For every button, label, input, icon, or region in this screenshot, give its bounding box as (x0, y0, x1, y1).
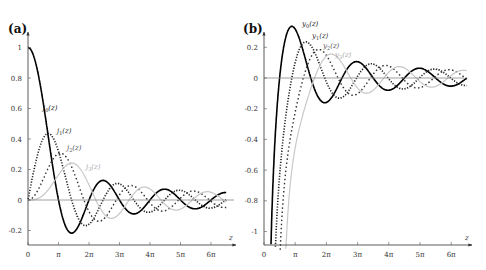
x-tick-label: 3π (353, 251, 362, 259)
curve-y1 (275, 42, 466, 247)
curve-j0 (28, 48, 226, 234)
panel-label-a: (a) (8, 22, 27, 36)
y-tick-label: -0.2 (9, 227, 23, 235)
bessel-chart: (a) 0π2π3π4π5π6π-0.200.20.40.60.81 z j0(… (0, 0, 486, 270)
curve-labels-a: j0(z)j1(z)j2(z)j3(z) (41, 104, 101, 172)
y-tick-label: 0 (254, 75, 258, 83)
curve-label-j3: j3(z) (84, 163, 101, 172)
x-tick-label: 2π (84, 251, 93, 259)
curve-label-j2: j2(z) (65, 144, 82, 153)
y-tick-label: 0.4 (11, 136, 23, 144)
y-tick-label: -0.6 (245, 167, 259, 175)
x-tick-label: 6π (447, 251, 456, 259)
curve-label-y3: y3(z) (334, 51, 352, 60)
curve-label-y1: y1(z) (311, 32, 329, 41)
curve-label-j0: j0(z) (41, 104, 58, 113)
y-tick-label: -0.2 (245, 105, 259, 113)
x-tick-label: 6π (206, 251, 215, 259)
x-tick-label: π (293, 251, 298, 259)
y-tick-label: 1 (18, 44, 22, 52)
y-tick-label: 0.2 (247, 44, 258, 52)
curves-a (28, 48, 226, 234)
curve-labels-b: y0(z)y1(z)y2(z)y3(z) (301, 20, 352, 60)
x-axis-label-a: z (228, 234, 233, 242)
y-tick-label: 0 (18, 197, 22, 205)
x-tick-label: 5π (176, 251, 185, 259)
y-tick-label: 0.8 (11, 75, 22, 83)
curve-label-j1: j1(z) (55, 127, 72, 136)
panel-a: (a) 0π2π3π4π5π6π-0.200.20.40.60.81 z j0(… (8, 22, 236, 259)
ticks-a: 0π2π3π4π5π6π-0.200.20.40.60.81 (9, 44, 216, 259)
panel-label-b: (b) (243, 22, 263, 36)
y-tick-label: -0.8 (245, 197, 259, 205)
curves-b (271, 26, 467, 250)
x-tick-label: 2π (322, 251, 331, 259)
x-tick-label: π (56, 251, 61, 259)
y-tick-label: 0.6 (11, 105, 23, 113)
curve-j1 (28, 134, 226, 226)
y-tick-label: -1 (251, 228, 258, 236)
x-tick-label: 3π (115, 251, 124, 259)
x-tick-label: 0 (26, 251, 30, 259)
panel-b: (b) 0π2π3π4π5π6π-1-0.8-0.6-0.4-0.200.2 z… (243, 20, 472, 259)
x-axis-label-b: z (464, 234, 469, 242)
x-tick-label: 0 (262, 251, 266, 259)
y-tick-label: 0.2 (11, 166, 22, 174)
x-tick-label: 4π (145, 251, 154, 259)
x-tick-label: 5π (415, 251, 424, 259)
curve-y0 (271, 26, 467, 244)
x-tick-label: 4π (384, 251, 393, 259)
curve-label-y0: y0(z) (301, 20, 319, 29)
y-tick-label: -0.4 (245, 136, 259, 144)
curve-label-y2: y2(z) (322, 42, 340, 51)
